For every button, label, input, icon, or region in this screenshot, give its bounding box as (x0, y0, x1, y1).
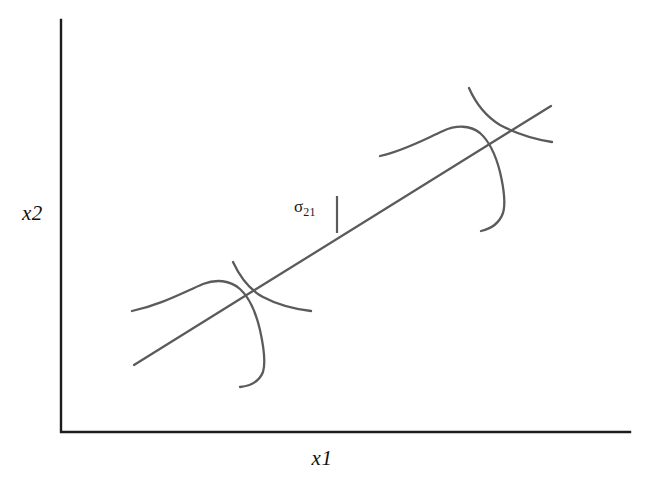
bell-curve-lower-baseline (233, 262, 311, 311)
sigma-subscript: 21 (303, 205, 316, 219)
y-axis-label: x2 (22, 201, 43, 226)
sigma-symbol: σ (294, 197, 303, 216)
regression-distribution-figure: x1 x2 σ21 (0, 0, 646, 482)
x-axis-label: x1 (312, 446, 333, 471)
bell-curve-upper (380, 127, 504, 231)
axes-frame (61, 20, 630, 432)
sigma-annotation: σ21 (294, 198, 316, 218)
figure-canvas (0, 0, 646, 482)
